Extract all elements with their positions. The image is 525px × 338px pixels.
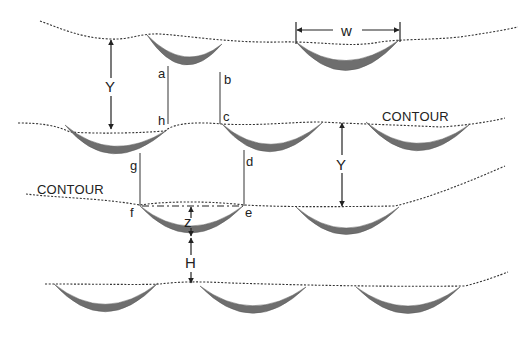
z-label: z (184, 213, 192, 230)
contour-line-1 (40, 21, 518, 44)
structure-row4-2 (200, 286, 306, 313)
contour-label-upper: CONTOUR (382, 109, 449, 124)
structure-row4-3 (356, 287, 460, 314)
structure-row2-3 (366, 122, 469, 151)
contour-line-4 (45, 272, 508, 286)
point-c: c (223, 109, 230, 124)
structure-row2-1 (65, 125, 167, 154)
point-a: a (158, 66, 166, 81)
contour-label-left: CONTOUR (37, 182, 104, 197)
w-label: w (340, 22, 352, 39)
y-label-right: Y (336, 156, 346, 173)
h-label: H (185, 254, 196, 271)
point-f: f (130, 205, 134, 220)
point-e: e (245, 205, 252, 220)
point-g: g (130, 158, 137, 173)
structure-row2-2 (222, 123, 322, 152)
structure-row4-1 (54, 283, 158, 312)
structure-row3-2 (296, 207, 399, 235)
point-b: b (224, 72, 231, 87)
point-h: h (158, 113, 165, 128)
point-d: d (246, 154, 253, 169)
y-label-left: Y (105, 78, 115, 95)
contour-structure-diagram: Y Y w z H a b c h g d f e CONTOUR CONTOU… (0, 0, 525, 338)
